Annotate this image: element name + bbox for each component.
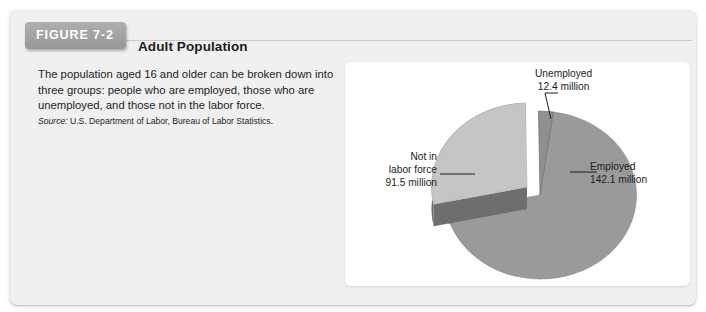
figure-description: The population aged 16 and older can be … bbox=[38, 67, 338, 114]
figure-title: Adult Population bbox=[138, 39, 248, 54]
label-notinlf-name2: labor force bbox=[347, 163, 437, 176]
figure-number-tab: FIGURE 7-2 bbox=[25, 22, 126, 49]
figure-number-label: FIGURE 7-2 bbox=[25, 29, 114, 42]
label-employed-name: Employed bbox=[590, 160, 647, 173]
label-notinlf-name1: Not in bbox=[347, 150, 437, 163]
figure-screenshot: FIGURE 7-2 Adult Population The populati… bbox=[0, 0, 706, 312]
source-label: Source: bbox=[38, 116, 68, 126]
label-employed: Employed 142.1 million bbox=[590, 160, 647, 186]
source-text: U.S. Department of Labor, Bureau of Labo… bbox=[68, 116, 273, 126]
label-not-in-labor-force: Not in labor force 91.5 million bbox=[347, 150, 437, 189]
label-unemployed-value: 12.4 million bbox=[535, 80, 592, 93]
notinlf-slice bbox=[431, 103, 527, 204]
figure-source: Source: U.S. Department of Labor, Bureau… bbox=[38, 116, 348, 127]
label-employed-value: 142.1 million bbox=[590, 173, 647, 186]
notinlf-group bbox=[431, 103, 527, 227]
figure-card: FIGURE 7-2 Adult Population The populati… bbox=[10, 10, 696, 305]
label-unemployed-name: Unemployed bbox=[535, 67, 592, 80]
label-notinlf-value: 91.5 million bbox=[347, 176, 437, 189]
label-unemployed: Unemployed 12.4 million bbox=[535, 67, 592, 93]
chart-panel: Unemployed 12.4 million Employed 142.1 m… bbox=[345, 62, 690, 286]
